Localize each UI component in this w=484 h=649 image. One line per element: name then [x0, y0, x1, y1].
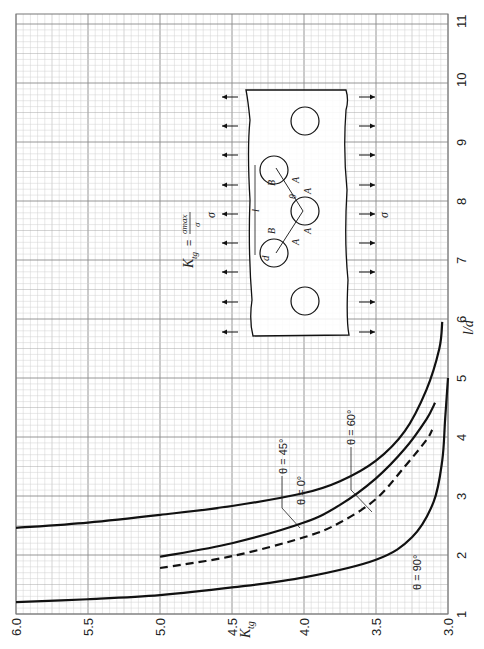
svg-text:5.5: 5.5 [81, 618, 96, 636]
svg-text:1: 1 [454, 611, 469, 618]
label-d: d [259, 255, 271, 261]
svg-text:tg: tg [189, 251, 199, 259]
x-tick-label: 3 [454, 493, 469, 500]
curve-theta-0 [16, 322, 442, 528]
label-A: A [290, 238, 301, 246]
x-tick-label: 9 [454, 139, 469, 146]
label-B: B [266, 180, 277, 186]
y-tick-label: 4.0 [297, 618, 312, 636]
x-tick-label: 10 [454, 73, 469, 87]
x-tick-label: 7 [454, 257, 469, 264]
svg-text:11: 11 [454, 15, 469, 29]
x-axis-title: l/d [461, 319, 476, 335]
svg-text:θ = 45°: θ = 45° [277, 439, 289, 474]
x-tick-label: 5 [454, 375, 469, 382]
label-A: A [302, 227, 313, 235]
x-tick-label: 8 [454, 198, 469, 205]
svg-text:10: 10 [454, 73, 469, 87]
x-tick-label: 1 [454, 611, 469, 618]
x-tick-label: 2 [454, 552, 469, 559]
svg-text:=: = [183, 240, 195, 246]
svg-text:7: 7 [454, 257, 469, 264]
svg-text:3: 3 [454, 493, 469, 500]
y-tick-label: 3.0 [441, 618, 456, 636]
svg-text:5: 5 [454, 375, 469, 382]
svg-text:θ = 90°: θ = 90° [411, 555, 423, 590]
sigma-right: σ [377, 211, 391, 218]
stress-concentration-chart: 3.03.54.04.55.05.56.01234567891011 K tg … [0, 0, 484, 649]
y-axis-title: K tg [238, 621, 256, 639]
svg-text:tg: tg [245, 621, 256, 629]
svg-text:9: 9 [454, 139, 469, 146]
label-A: A [302, 187, 313, 195]
y-tick-label: 3.5 [369, 618, 384, 636]
svg-text:6.0: 6.0 [9, 618, 24, 636]
svg-text:3.5: 3.5 [369, 618, 384, 636]
svg-text:8: 8 [454, 198, 469, 205]
svg-text:σmax: σmax [179, 215, 189, 234]
plate-outline [246, 90, 349, 336]
svg-text:l/d: l/d [461, 319, 476, 335]
svg-text:5.0: 5.0 [153, 618, 168, 636]
y-tick-label: 5.5 [81, 618, 96, 636]
y-tick-label: 6.0 [9, 618, 24, 636]
svg-text:2: 2 [454, 552, 469, 559]
label-theta-90: θ = 90° [411, 555, 423, 590]
label-l: l [249, 209, 261, 212]
svg-text:3.0: 3.0 [441, 618, 456, 636]
svg-text:θ = 0°: θ = 0° [295, 476, 307, 505]
svg-text:θ = 60°: θ = 60° [345, 410, 357, 445]
x-tick-label: 11 [454, 15, 469, 29]
label-theta-0: θ = 0° [295, 476, 307, 505]
svg-text:4: 4 [454, 434, 469, 441]
y-tick-label: 5.0 [153, 618, 168, 636]
label-B: B [266, 228, 277, 234]
x-tick-label: 4 [454, 434, 469, 441]
svg-text:4.0: 4.0 [297, 618, 312, 636]
label-A: A [290, 176, 301, 184]
sigma-left: σ [204, 211, 218, 218]
formula: K tg = σmax σ [179, 212, 202, 269]
label-theta-45: θ = 45° [277, 439, 289, 474]
label-theta: θ [287, 194, 298, 199]
svg-text:σ: σ [192, 222, 202, 227]
label-theta-60: θ = 60° [345, 410, 357, 445]
